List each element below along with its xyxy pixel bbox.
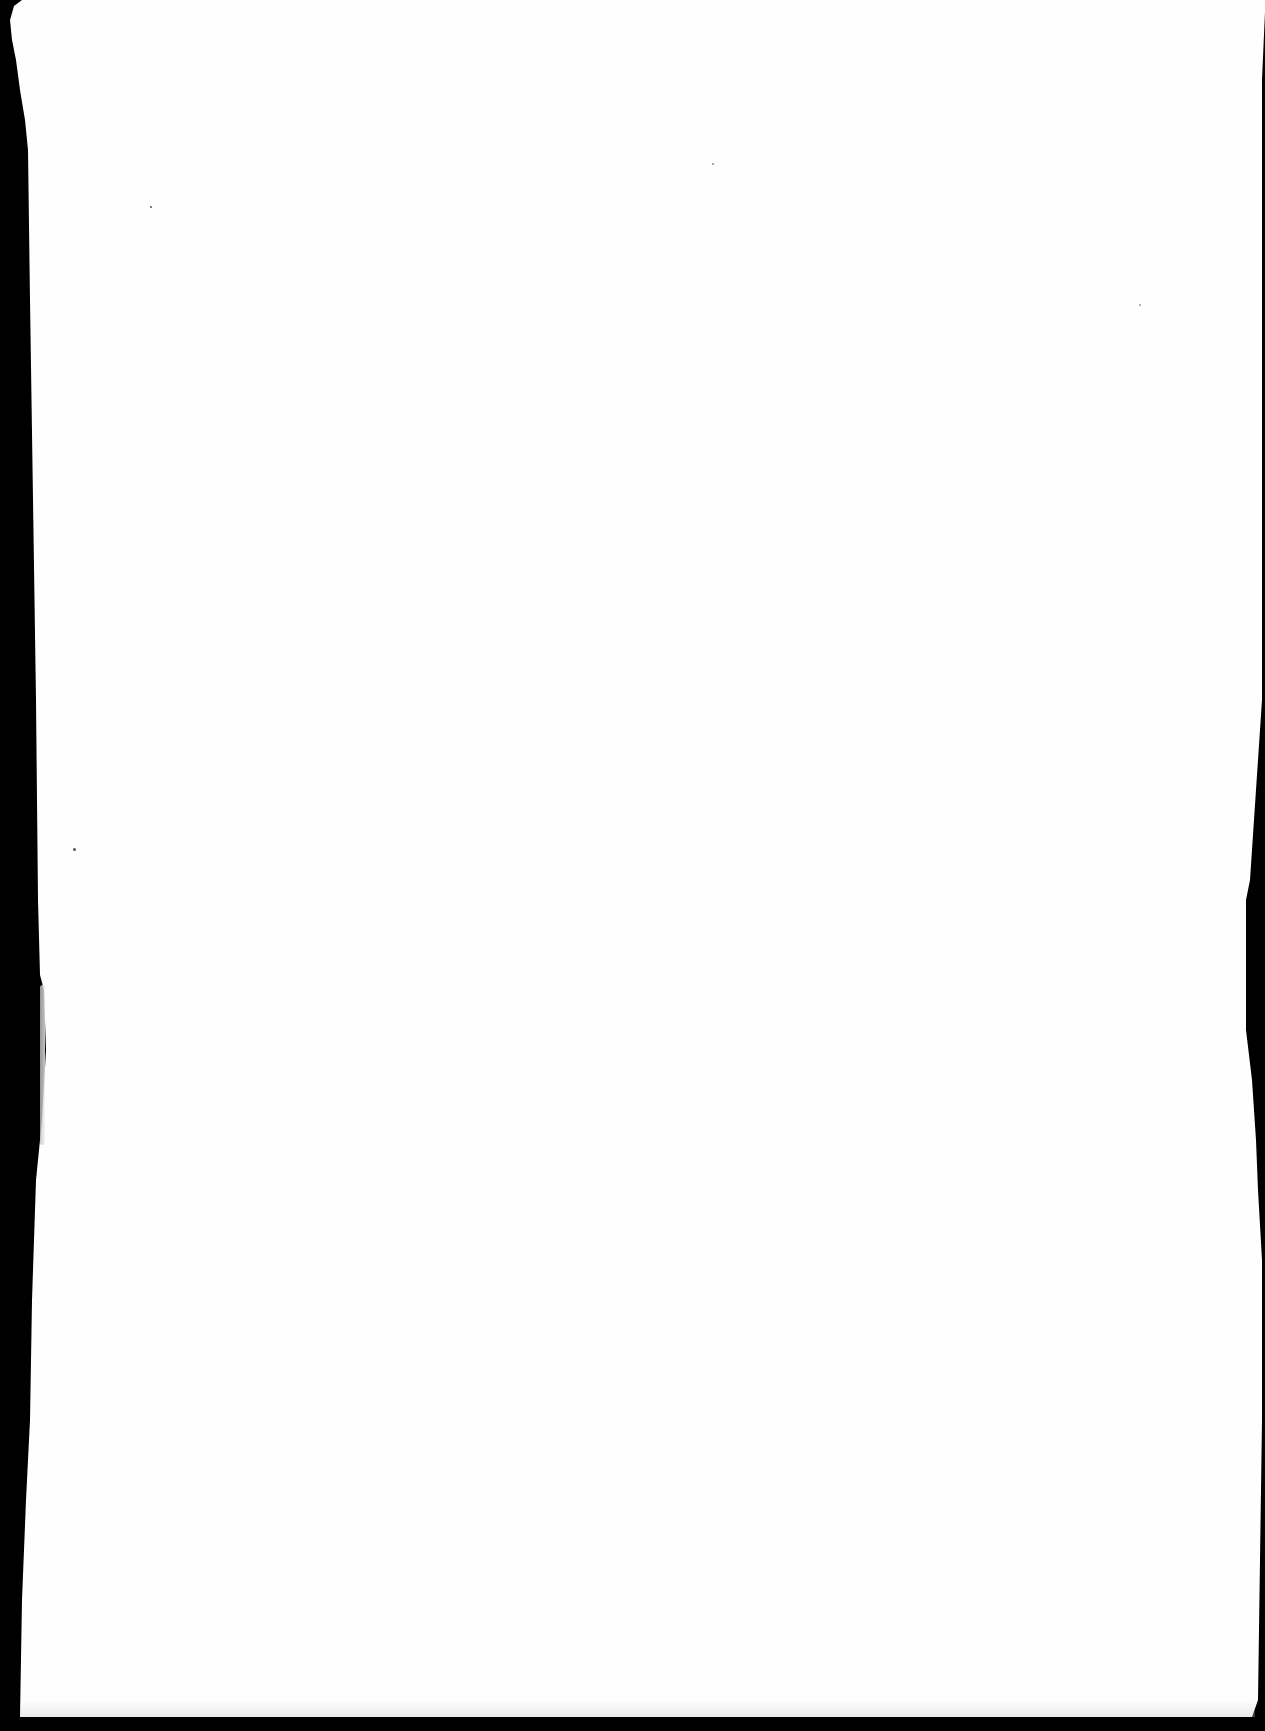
page-bottom-shadow (20, 1700, 1255, 1717)
blank-paper-sheet (0, 0, 1265, 1731)
dust-speck (150, 206, 152, 208)
scanned-page (0, 0, 1265, 1731)
paper-edge-curl (40, 985, 45, 1145)
dust-speck (712, 163, 714, 165)
dust-speck (73, 848, 76, 851)
dust-speck (1139, 304, 1141, 306)
